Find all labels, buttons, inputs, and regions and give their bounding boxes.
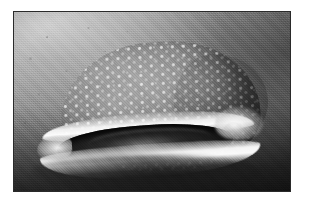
whale-shark bbox=[14, 12, 290, 191]
lip-right-corner-highlight bbox=[213, 105, 264, 141]
photograph-frame: Frontal view of a whale shark with its w… bbox=[13, 11, 291, 192]
shark-underside-shadow bbox=[31, 155, 263, 191]
photograph-whale-shark bbox=[14, 12, 290, 191]
screenshot-canvas: Frontal view of a whale shark with its w… bbox=[0, 0, 309, 201]
